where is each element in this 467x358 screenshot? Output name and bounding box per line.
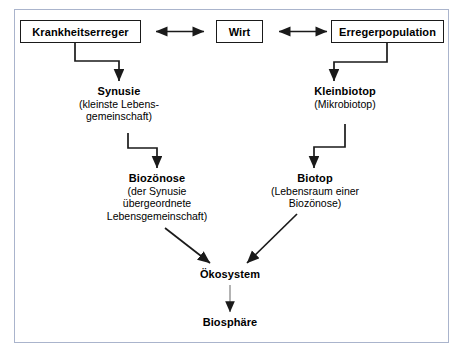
connector-layer <box>0 0 467 358</box>
node-biotop-sub-line-1: (Lebensraum einer <box>250 185 380 198</box>
node-biotop: Biotop (Lebensraum einer Biozönose) <box>250 172 380 210</box>
connector-biotop-oekosystem <box>247 214 297 263</box>
connector-erregerpopulation-kleinbiotop <box>334 43 387 81</box>
node-biozoenose-sub-line-2: übergeordnete <box>82 197 232 210</box>
node-oekosystem-title: Ökosystem <box>175 268 285 281</box>
box-erregerpopulation[interactable]: Erregerpopulation <box>331 20 444 43</box>
connector-biozoenose-oekosystem <box>165 228 210 263</box>
node-biozoenose: Biozönose (der Synusie übergeordnete Leb… <box>82 172 232 222</box>
node-biozoenose-sub-line-1: (der Synusie <box>82 185 232 198</box>
node-synusie-sub-line-1: (kleinste Lebens- <box>59 98 179 111</box>
node-kleinbiotop-title: Kleinbiotop <box>285 85 405 98</box>
node-synusie: Synusie (kleinste Lebens- gemeinschaft) <box>59 85 179 123</box>
node-biotop-title: Biotop <box>250 172 380 185</box>
node-biozoenose-sub-line-3: Lebensgemeinschaft) <box>82 210 232 223</box>
box-krankheitserreger[interactable]: Krankheitserreger <box>20 20 141 43</box>
node-kleinbiotop-sub-line-1: (Mikrobiotop) <box>285 98 405 111</box>
node-synusie-title: Synusie <box>59 85 179 98</box>
node-synusie-sub-line-2: gemeinschaft) <box>59 110 179 123</box>
diagram-root: Krankheitserreger Wirt Erregerpopulation… <box>0 0 467 358</box>
node-biosphaere: Biosphäre <box>175 316 285 329</box>
connector-synusie-biozoenose <box>128 133 157 168</box>
node-biozoenose-title: Biozönose <box>82 172 232 185</box>
node-kleinbiotop: Kleinbiotop (Mikrobiotop) <box>285 85 405 110</box>
connector-krankheitserreger-synusie <box>75 43 119 81</box>
node-oekosystem: Ökosystem <box>175 268 285 281</box>
connector-kleinbiotop-biotop <box>314 124 345 168</box>
node-biosphaere-title: Biosphäre <box>175 316 285 329</box>
node-biotop-sub-line-2: Biozönose) <box>250 197 380 210</box>
box-wirt[interactable]: Wirt <box>216 20 263 43</box>
